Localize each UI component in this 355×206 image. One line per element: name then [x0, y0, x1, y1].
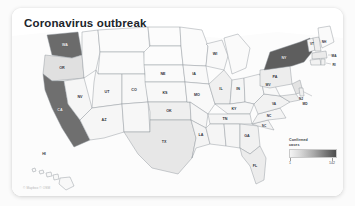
state-MT[interactable] — [98, 27, 150, 52]
state-label-NC: NC — [267, 114, 272, 118]
state-label-GA: GA — [244, 134, 250, 138]
state-DE[interactable] — [299, 88, 304, 96]
state-label-CA: CA — [57, 108, 63, 112]
state-label-CO: CO — [131, 88, 137, 92]
state-label-WI: WI — [213, 52, 218, 56]
state-label-OK: OK — [166, 109, 172, 113]
legend-gradient-bar — [289, 149, 337, 158]
state-ND[interactable] — [148, 27, 181, 46]
coronavirus-map-card: Coronavirus outbreak — [12, 8, 343, 196]
state-label-TX: TX — [162, 140, 167, 144]
state-label-NV: NV — [77, 95, 83, 99]
state-CT[interactable] — [310, 59, 321, 65]
state-label-PA: PA — [273, 75, 278, 79]
state-label-KY: KY — [231, 107, 237, 111]
state-label-KS: KS — [162, 91, 168, 95]
state-label-WA: WA — [62, 43, 68, 47]
legend-scale: 1 142 — [289, 158, 335, 166]
state-label-SC: SC — [262, 124, 267, 128]
state-label-NY: NY — [281, 56, 287, 60]
state-label-HI: HI — [42, 152, 46, 156]
state-label-IN: IN — [236, 87, 240, 91]
state-RI[interactable] — [321, 59, 325, 65]
state-label-VA: VA — [272, 102, 277, 106]
state-label-TN: TN — [223, 117, 228, 121]
state-label-NJ: NJ — [299, 97, 303, 101]
us-map-svg[interactable]: WA OR CA NV UT AZ CO NE KS OK TX WI IA M… — [12, 8, 343, 196]
state-label-OR: OR — [59, 66, 65, 70]
state-IA[interactable] — [183, 65, 209, 84]
state-label-RI: RI — [332, 63, 335, 67]
legend-max-value: 142 — [329, 161, 335, 165]
map-legend: Confirmed cases 1 142 — [289, 138, 335, 166]
state-label-AZ: AZ — [102, 118, 108, 122]
state-label-UT: UT — [105, 90, 111, 94]
state-label-WV: WV — [265, 83, 271, 87]
state-NM[interactable] — [122, 102, 150, 132]
choropleth-map[interactable]: WA OR CA NV UT AZ CO NE KS OK TX WI IA M… — [12, 8, 343, 196]
page-title: Coronavirus outbreak — [24, 17, 147, 29]
state-label-NH: NH — [322, 40, 327, 44]
state-AL[interactable] — [224, 124, 240, 148]
state-label-LA: LA — [199, 133, 204, 137]
legend-min-value: 1 — [289, 161, 291, 165]
state-label-NE: NE — [160, 72, 166, 76]
state-WY[interactable] — [98, 52, 145, 74]
legend-title-line2: cases — [289, 143, 335, 147]
state-IN[interactable] — [230, 78, 245, 104]
state-SD[interactable] — [144, 46, 183, 65]
screenshot-root: { "card": { "title": "Coronavirus outbre… — [0, 0, 355, 206]
legend-title: Confirmed cases — [289, 138, 335, 147]
state-label-MO: MO — [194, 93, 200, 97]
state-TN[interactable] — [208, 114, 252, 124]
state-label-VT: VT — [310, 42, 314, 46]
state-label-IA: IA — [192, 72, 196, 76]
state-label-MD: MD — [303, 102, 309, 106]
state-label-FL: FL — [253, 164, 258, 168]
map-attribution[interactable]: © Mapbox © OSM — [23, 186, 50, 190]
state-label-MA: MA — [332, 54, 338, 58]
